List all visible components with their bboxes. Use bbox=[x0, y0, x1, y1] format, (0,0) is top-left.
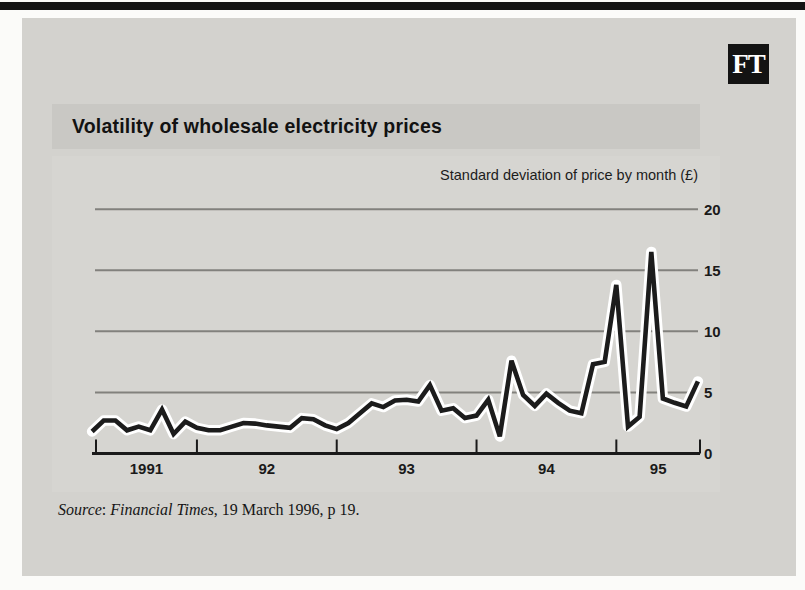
page: Volatility of wholesale electricity pric… bbox=[0, 0, 805, 590]
x-axis-label-1991: 1991 bbox=[130, 460, 163, 477]
y-axis-label-5: 5 bbox=[704, 384, 712, 401]
y-axis-label-20: 20 bbox=[704, 201, 721, 218]
source-label: Source bbox=[58, 501, 102, 518]
series-line bbox=[92, 252, 698, 436]
source-line: Source: Financial Times, 19 March 1996, … bbox=[58, 501, 360, 519]
y-axis-label-10: 10 bbox=[704, 323, 721, 340]
x-axis-label-93: 93 bbox=[398, 460, 415, 477]
y-axis-label-0: 0 bbox=[704, 445, 712, 462]
x-axis-label-94: 94 bbox=[538, 460, 555, 477]
source-publication: Financial Times bbox=[110, 501, 214, 518]
x-axis-label-95: 95 bbox=[650, 460, 667, 477]
x-axis-label-92: 92 bbox=[258, 460, 275, 477]
y-axis-label-15: 15 bbox=[704, 262, 721, 279]
source-suffix: , 19 March 1996, p 19. bbox=[214, 501, 360, 518]
